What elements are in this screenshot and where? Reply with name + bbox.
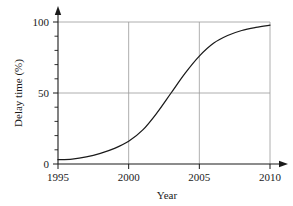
y-tick-label-0: 0	[44, 158, 50, 170]
axes	[55, 6, 288, 167]
x-tick-label-1995: 1995	[47, 171, 70, 183]
y-tick-label-50: 50	[38, 87, 50, 99]
sigmoid-line-chart: 100 50 0 1995 2000 2005 2010 Year Delay …	[0, 0, 293, 206]
y-axis-arrow-icon	[55, 6, 61, 15]
delay-time-curve	[58, 25, 270, 160]
y-tick-label-100: 100	[33, 16, 50, 28]
gridlines	[58, 22, 270, 164]
x-tick-label-2000: 2000	[118, 171, 141, 183]
x-tick-label-2005: 2005	[188, 171, 211, 183]
chart-figure: 100 50 0 1995 2000 2005 2010 Year Delay …	[0, 0, 293, 206]
x-axis-title: Year	[157, 189, 178, 201]
y-axis-title: Delay time (%)	[12, 59, 25, 127]
x-tick-label-2010: 2010	[259, 171, 282, 183]
y-major-ticks	[53, 22, 58, 164]
x-major-ticks	[58, 164, 270, 169]
x-axis-arrow-icon	[279, 161, 288, 167]
